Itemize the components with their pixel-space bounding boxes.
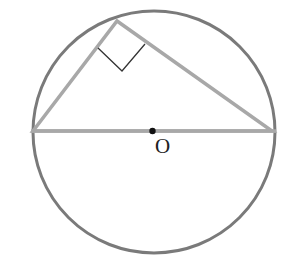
right-angle-marker — [98, 44, 145, 71]
inscribed-triangle — [33, 21, 272, 131]
center-label: O — [155, 134, 170, 158]
diagram-canvas: O — [0, 0, 293, 278]
